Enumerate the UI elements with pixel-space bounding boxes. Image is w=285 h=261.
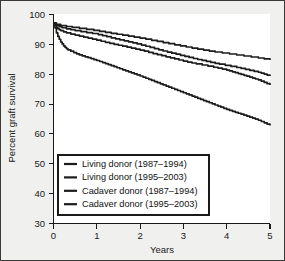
y-tick-label: 70 [34,98,45,109]
x-axis-title: Years [150,244,174,255]
x-tick-label: 4 [224,230,229,241]
chart-figure: 30405060708090100 012345 Percent graft s… [0,0,285,261]
legend-item-label: Living donor (1995–2003) [82,172,187,182]
y-tick-label: 30 [34,218,45,229]
chart-legend: Living donor (1987–1994)Living donor (19… [58,155,209,215]
y-tick-label: 90 [34,39,45,50]
legend-item-label: Cadaver donor (1995–2003) [82,199,197,209]
y-axis-title: Percent graft survival [6,73,17,162]
y-tick-label: 40 [34,188,45,199]
legend-item-label: Cadaver donor (1987–1994) [82,186,197,196]
x-tick-label: 5 [267,230,272,241]
y-tick-label: 60 [34,128,45,139]
x-tick-label: 1 [94,230,99,241]
y-tick-label: 80 [34,69,45,80]
x-tick-label: 3 [181,230,186,241]
survival-line-chart: 30405060708090100 012345 Percent graft s… [1,1,285,261]
y-tick-label: 100 [29,9,45,20]
y-tick-label: 50 [34,158,45,169]
x-tick-label: 0 [51,230,56,241]
y-axis-ticks: 30405060708090100 [29,9,53,229]
legend-item-label: Living donor (1987–1994) [82,159,187,169]
x-tick-label: 2 [137,230,142,241]
x-axis-ticks: 012345 [51,224,273,242]
